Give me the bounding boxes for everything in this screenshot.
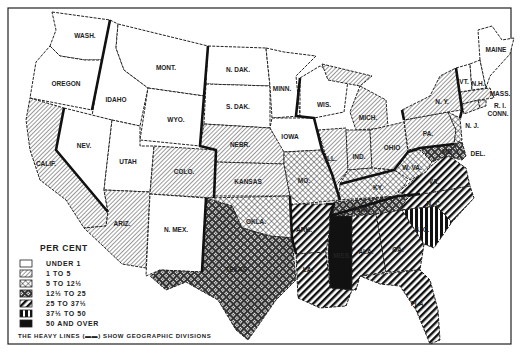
legend-swatch-0 <box>20 260 32 267</box>
label-ark: ARK. <box>296 226 312 233</box>
legend-label-2: 5 TO 12½ <box>46 280 82 287</box>
label-wyo: WYO. <box>167 116 185 123</box>
label-ri: R. I. <box>494 102 506 109</box>
label-mo: MO. <box>298 177 310 184</box>
label-ky: KY. <box>373 184 383 191</box>
legend-label-5: 37½ TO 50 <box>46 310 86 317</box>
label-wash: WASH. <box>74 32 96 39</box>
legend-swatch-5 <box>20 310 32 317</box>
label-md: MD. <box>442 148 454 155</box>
legend-label-6: 50 AND OVER <box>46 320 99 327</box>
legend-label-4: 25 TO 37½ <box>46 300 86 307</box>
label-va: VA. <box>429 178 440 185</box>
legend-label-0: UNDER 1 <box>46 260 81 267</box>
label-ariz: ARIZ. <box>114 220 131 227</box>
label-mich: MICH. <box>359 114 378 121</box>
label-conn: CONN. <box>488 110 509 117</box>
label-ny: N. Y. <box>435 98 449 105</box>
label-texas: TEXAS <box>225 266 247 273</box>
label-fla: FLA. <box>411 300 426 307</box>
label-del: DEL. <box>471 150 486 157</box>
label-nmex: N. MEX. <box>164 226 188 233</box>
label-iowa: IOWA <box>281 133 299 140</box>
label-sdak: S. DAK. <box>226 103 250 110</box>
label-ohio: OHIO <box>384 144 401 151</box>
label-nev: NEV. <box>77 142 92 149</box>
label-mont: MONT. <box>156 64 176 71</box>
label-vt: VT. <box>459 78 469 85</box>
label-nj: N. J. <box>465 122 479 129</box>
legend-title: PER CENT <box>40 243 88 253</box>
label-maine: MAINE <box>486 46 508 53</box>
label-kansas: KANSAS <box>234 178 262 185</box>
legend-swatch-3 <box>20 290 32 297</box>
label-wva: W. VA. <box>402 164 422 171</box>
legend-label-3: 12½ TO 25 <box>46 290 86 297</box>
label-oregon: OREGON <box>52 80 81 87</box>
choropleth-map: WASH. OREGON CALIF. IDAHO NEV. UTAH ARIZ… <box>0 0 528 355</box>
label-pa: PA. <box>423 130 434 137</box>
label-ill: ILL. <box>325 155 337 162</box>
label-ga: GA. <box>392 246 404 253</box>
label-mass: MASS. <box>490 90 511 97</box>
label-tenn: TENN. <box>352 206 372 213</box>
label-nebr: NEBR. <box>230 141 250 148</box>
label-colo: COLO. <box>174 168 195 175</box>
label-wis: WIS. <box>317 101 331 108</box>
legend-swatch-6 <box>20 320 32 327</box>
state-ri <box>478 100 486 108</box>
state-nmex <box>146 194 206 276</box>
label-ala: ALA. <box>358 248 373 255</box>
legend-label-1: 1 TO 5 <box>46 270 71 277</box>
label-okla: OKLA. <box>246 218 266 225</box>
label-calif: CALIF. <box>36 160 56 167</box>
label-nc: N. C. <box>427 200 442 207</box>
label-ndak: N. DAK. <box>226 66 250 73</box>
label-nh: N.H. <box>472 80 485 87</box>
legend-note: THE HEAVY LINES (▬▬) SHOW GEOGRAPHIC DIV… <box>18 333 211 339</box>
label-sc: S. C. <box>415 226 430 233</box>
label-minn: MINN. <box>273 85 292 92</box>
legend-swatch-1 <box>20 270 32 277</box>
label-la: LA. <box>303 266 314 273</box>
label-idaho: IDAHO <box>106 96 127 103</box>
label-utah: UTAH <box>119 158 137 165</box>
label-ind: IND. <box>353 153 366 160</box>
label-miss: MISS. <box>333 252 351 259</box>
state-ind <box>346 130 372 170</box>
legend-swatch-4 <box>20 300 32 307</box>
legend-swatch-2 <box>20 280 32 287</box>
